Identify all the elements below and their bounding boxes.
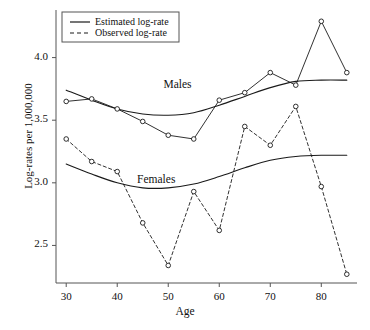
- axis-ticks: [52, 58, 321, 287]
- series-label-females: Females: [137, 173, 175, 185]
- x-axis-label: Age: [0, 305, 370, 317]
- data-point: [242, 124, 247, 129]
- data-point: [89, 97, 94, 102]
- x-tick-label: 30: [49, 290, 83, 302]
- data-point: [268, 70, 273, 75]
- y-tick-label: 4.0: [14, 50, 48, 62]
- x-tick-label: 50: [151, 290, 185, 302]
- data-point: [140, 221, 145, 226]
- data-point: [166, 263, 171, 268]
- y-tick-label: 3.0: [14, 175, 48, 187]
- data-point: [115, 169, 120, 174]
- data-series-lines: [66, 21, 347, 274]
- data-point: [345, 70, 350, 75]
- series-path-1: [66, 80, 347, 115]
- data-point: [293, 104, 298, 109]
- x-tick-label: 40: [100, 290, 134, 302]
- legend-label-observed: Observed log-rate: [95, 27, 167, 38]
- data-point: [191, 137, 196, 142]
- data-point: [319, 184, 324, 189]
- x-tick-label: 60: [202, 290, 236, 302]
- x-tick-label: 70: [253, 290, 287, 302]
- chart-figure: Log-rates per 1,000,000 Age Males Female…: [0, 0, 370, 330]
- data-point: [89, 159, 94, 164]
- data-point: [268, 143, 273, 148]
- legend-label-estimated: Estimated log-rate: [95, 16, 169, 27]
- data-point: [140, 119, 145, 124]
- series-path-2: [66, 106, 347, 274]
- data-point: [319, 19, 324, 24]
- data-point: [64, 99, 69, 104]
- data-point: [115, 107, 120, 112]
- x-tick-label: 80: [304, 290, 338, 302]
- data-point: [293, 83, 298, 88]
- data-point: [217, 228, 222, 233]
- y-tick-label: 3.5: [14, 112, 48, 124]
- series-label-males: Males: [163, 78, 191, 90]
- data-point: [242, 90, 247, 95]
- y-axis-label: Log-rates per 1,000,000: [22, 46, 34, 226]
- y-tick-label: 2.5: [14, 237, 48, 249]
- data-point: [217, 98, 222, 103]
- data-point: [345, 272, 350, 277]
- data-point: [191, 189, 196, 194]
- chart-canvas: [0, 0, 370, 330]
- data-point: [64, 137, 69, 142]
- series-path-3: [66, 155, 347, 188]
- data-point: [166, 133, 171, 138]
- axes: [56, 10, 357, 283]
